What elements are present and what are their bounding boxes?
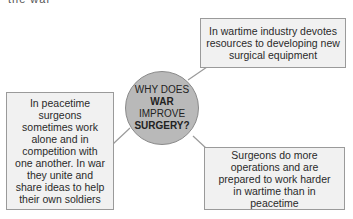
box-surgeons-unite: In peacetime surgeons sometimes work alo… [6, 92, 114, 210]
box-more-operations: Surgeons do more operations and are prep… [204, 147, 345, 210]
center-line-3: IMPROVE [139, 108, 185, 120]
center-line-2: WAR [150, 96, 173, 108]
center-line-4: SURGERY? [134, 120, 189, 132]
central-question-circle: WHY DOES WAR IMPROVE SURGERY? [125, 71, 199, 145]
box-more-operations-text: Surgeons do more operations and are prep… [213, 149, 336, 209]
box-industry-equipment-text: In wartime industry devotes resources to… [205, 25, 341, 61]
box-industry-equipment: In wartime industry devotes resources to… [200, 18, 346, 68]
center-line-1: WHY DOES [135, 84, 189, 96]
box-surgeons-unite-text: In peacetime surgeons sometimes work alo… [13, 97, 107, 205]
